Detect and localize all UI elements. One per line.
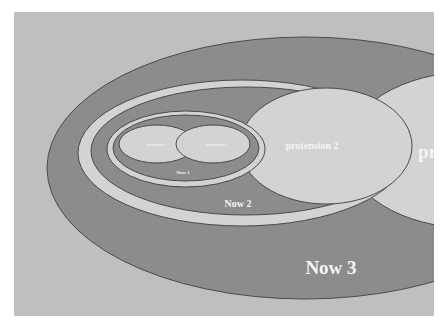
nested-ellipses-diagram: retention 1 protension 1 Now 1 protensio… (14, 12, 434, 316)
protension-2-label: protension 2 (286, 140, 339, 151)
now-2-label: Now 2 (225, 198, 252, 209)
protension-3-label: pr (418, 141, 434, 162)
now-1-label: Now 1 (176, 170, 190, 175)
retention-1-label: retention 1 (147, 142, 165, 147)
now-3-label: Now 3 (305, 257, 356, 278)
protension-1-label: protension 1 (205, 142, 226, 147)
diagram-panel: retention 1 protension 1 Now 1 protensio… (14, 12, 434, 316)
